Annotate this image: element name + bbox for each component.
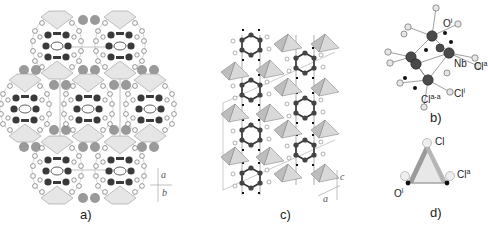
panel-label-a: a): [80, 207, 92, 222]
atom-name: O: [394, 188, 402, 199]
atom-superscript: i: [402, 187, 404, 194]
chain-diagram: [180, 0, 340, 228]
atom-label-nb: Nb: [454, 59, 467, 69]
atom-name: Cl: [435, 136, 444, 147]
atom-label-cl-i: Cli: [454, 87, 465, 99]
atom-superscript: i: [451, 17, 453, 24]
atom-label-cl: Cl: [435, 137, 444, 147]
axis-label-a: a: [161, 169, 166, 180]
atom-superscript: a-a: [430, 93, 440, 100]
packing-diagram: [0, 0, 180, 228]
panel-label-d: d): [430, 205, 442, 220]
panel-label-b: b): [430, 110, 442, 125]
atom-label-cl-a: Cla: [474, 60, 487, 72]
atom-label-o-inner: Oi: [443, 17, 452, 29]
panel-b-cluster: Oi Nb Cla Cli Cla-a b): [370, 0, 488, 130]
axis-label-c: c: [340, 171, 344, 182]
atom-superscript: i: [463, 87, 465, 94]
atom-name: Nb: [454, 58, 467, 69]
atom-label-o-i: Oi: [394, 187, 403, 199]
panel-label-c: c): [280, 207, 291, 222]
atom-label-cl-a-a: Cla-a: [421, 93, 441, 105]
atom-superscript: a: [466, 168, 470, 175]
panel-d-tetrahedron: Cl Cla Oi d): [370, 130, 488, 228]
atom-label-cl-a: Cla: [457, 168, 470, 180]
axis-label-a: a: [323, 193, 328, 204]
cluster-diagram: [370, 0, 488, 130]
atom-superscript: a: [483, 60, 487, 67]
atom-name: O: [443, 18, 451, 29]
panel-c-chains: c a c): [180, 0, 340, 228]
axis-label-b: b: [162, 187, 167, 198]
panel-a-packing: a b a): [0, 0, 180, 228]
